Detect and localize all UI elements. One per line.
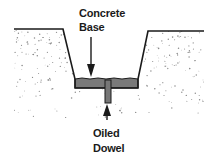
soil-dot (171, 87, 172, 88)
soil-dot (199, 99, 200, 100)
soil-dot (140, 30, 141, 31)
soil-dot (164, 66, 165, 67)
soil-dot (21, 32, 22, 33)
soil-dot (186, 101, 187, 102)
soil-dot (35, 83, 36, 84)
soil-dot (16, 41, 17, 42)
soil-dot (188, 36, 189, 37)
soil-dot (96, 39, 98, 41)
soil-dot (44, 57, 45, 58)
soil-dot (186, 95, 187, 96)
soil-dot (98, 114, 99, 115)
soil-dot (119, 110, 120, 111)
soil-dot (37, 82, 38, 83)
soil-dot (172, 36, 174, 38)
soil-dot (70, 44, 71, 45)
soil-dot (101, 63, 102, 64)
soil-dot (46, 42, 47, 43)
soil-dot (167, 68, 168, 69)
soil-dot (138, 56, 140, 58)
soil-dot (21, 65, 23, 67)
soil-dot (51, 88, 52, 89)
soil-dot (184, 36, 186, 38)
soil-dot (25, 81, 26, 82)
soil-dot (24, 35, 25, 36)
soil-dot (174, 85, 176, 87)
soil-dot (47, 66, 48, 67)
soil-dot (138, 55, 139, 56)
soil-dot (164, 61, 165, 62)
soil-dot (16, 30, 17, 31)
soil-dot (116, 57, 117, 58)
soil-dot (96, 106, 97, 107)
soil-dot (180, 36, 181, 37)
soil-dot (101, 36, 102, 37)
soil-dot (14, 110, 15, 111)
soil-dot (154, 68, 155, 69)
soil-dot (52, 88, 53, 89)
soil-dot (52, 62, 53, 63)
soil-dot (107, 41, 109, 43)
soil-dot (163, 95, 164, 96)
soil-dot (132, 53, 133, 54)
soil-dot (154, 88, 156, 90)
soil-dot (121, 108, 122, 109)
soil-dot (61, 62, 62, 63)
soil-dot (84, 71, 85, 72)
soil-dot (19, 79, 20, 80)
soil-dot (99, 71, 100, 72)
soil-dot (113, 52, 115, 54)
soil-dot (58, 42, 59, 43)
soil-dot (191, 37, 192, 38)
soil-dot (103, 70, 104, 71)
soil-dot (49, 43, 50, 44)
soil-dot (47, 52, 48, 53)
soil-dot (164, 55, 165, 56)
soil-dot (139, 37, 140, 38)
soil-dot (188, 56, 189, 57)
soil-dot (181, 92, 182, 93)
soil-dot (59, 37, 60, 38)
soil-dot (84, 72, 85, 73)
soil-dot (124, 50, 125, 51)
soil-dot (177, 35, 179, 37)
soil-dot (117, 44, 118, 45)
soil-dot (158, 61, 159, 62)
soil-dot (129, 37, 130, 38)
soil-speckle (14, 30, 204, 119)
soil-dot (56, 45, 57, 46)
soil-dot (141, 39, 142, 40)
soil-dot (185, 70, 186, 71)
soil-dot (159, 84, 160, 85)
soil-dot (24, 91, 25, 92)
soil-dot (169, 101, 170, 102)
soil-dot (128, 52, 129, 53)
soil-dot (121, 112, 122, 113)
soil-dot (184, 48, 185, 49)
soil-dot (60, 66, 61, 67)
trench-diagram: Concrete Base Oiled Dowel (0, 0, 214, 166)
soil-dot (130, 44, 131, 45)
soil-dot (199, 95, 200, 96)
soil-dot (66, 62, 67, 63)
soil-dot (95, 47, 96, 48)
soil-dot (34, 52, 35, 53)
soil-dot (190, 68, 191, 69)
soil-dot (60, 49, 61, 50)
soil-dot (125, 74, 126, 75)
soil-dot (76, 40, 77, 41)
soil-dot (162, 82, 163, 83)
soil-dot (37, 68, 38, 69)
soil-dot (83, 43, 84, 44)
soil-dot (139, 54, 140, 55)
soil-dot (18, 32, 19, 33)
soil-dot (105, 46, 106, 47)
soil-dot (144, 61, 145, 62)
soil-dot (61, 34, 62, 35)
soil-dot (175, 64, 176, 65)
soil-dot (18, 112, 19, 113)
soil-dot (189, 52, 190, 53)
soil-dot (35, 96, 36, 97)
soil-dot (203, 82, 204, 83)
soil-dot (121, 58, 122, 59)
